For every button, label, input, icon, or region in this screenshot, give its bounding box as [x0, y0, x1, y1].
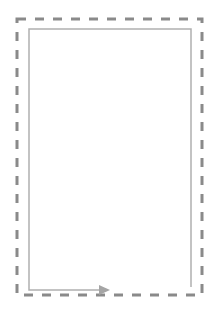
inner-flow-path — [29, 29, 191, 290]
dashed-boundary — [17, 19, 202, 295]
diagram-svg — [0, 0, 217, 321]
